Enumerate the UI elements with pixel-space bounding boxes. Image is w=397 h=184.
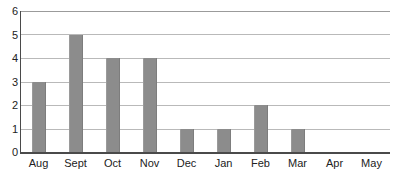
y-tick-label-5: 5 (0, 30, 18, 41)
bar-mar[interactable] (291, 129, 305, 153)
bars-layer (20, 11, 390, 152)
y-tick-label-3: 3 (0, 77, 18, 88)
bar-feb[interactable] (254, 105, 268, 152)
bar-jan[interactable] (217, 129, 231, 153)
bar-dec[interactable] (180, 129, 194, 153)
bar-chart: 6 5 4 3 2 1 0 AugSeptOctNovDecJanFebMarA… (0, 0, 397, 184)
bar-nov[interactable] (143, 58, 157, 152)
y-tick-label-1: 1 (0, 124, 18, 135)
x-axis-line (20, 152, 390, 154)
bar-sept[interactable] (69, 35, 83, 153)
x-tick-label-apr: Apr (316, 157, 353, 170)
y-axis-tick-labels: 6 5 4 3 2 1 0 (0, 0, 18, 184)
plot-area (20, 11, 390, 152)
x-tick-label-sept: Sept (57, 157, 94, 170)
x-axis-tick-labels: AugSeptOctNovDecJanFebMarAprMay (20, 157, 390, 177)
x-tick-label-feb: Feb (242, 157, 279, 170)
y-tick-label-0: 0 (0, 147, 18, 158)
y-tick-label-4: 4 (0, 53, 18, 64)
y-axis-line (20, 11, 21, 153)
x-tick-label-jan: Jan (205, 157, 242, 170)
x-tick-label-aug: Aug (20, 157, 57, 170)
bar-oct[interactable] (106, 58, 120, 152)
x-tick-label-mar: Mar (279, 157, 316, 170)
bar-aug[interactable] (32, 82, 46, 153)
x-tick-label-nov: Nov (131, 157, 168, 170)
x-tick-label-oct: Oct (94, 157, 131, 170)
x-tick-label-dec: Dec (168, 157, 205, 170)
x-tick-label-may: May (353, 157, 390, 170)
y-tick-label-2: 2 (0, 100, 18, 111)
y-tick-label-6: 6 (0, 6, 18, 17)
